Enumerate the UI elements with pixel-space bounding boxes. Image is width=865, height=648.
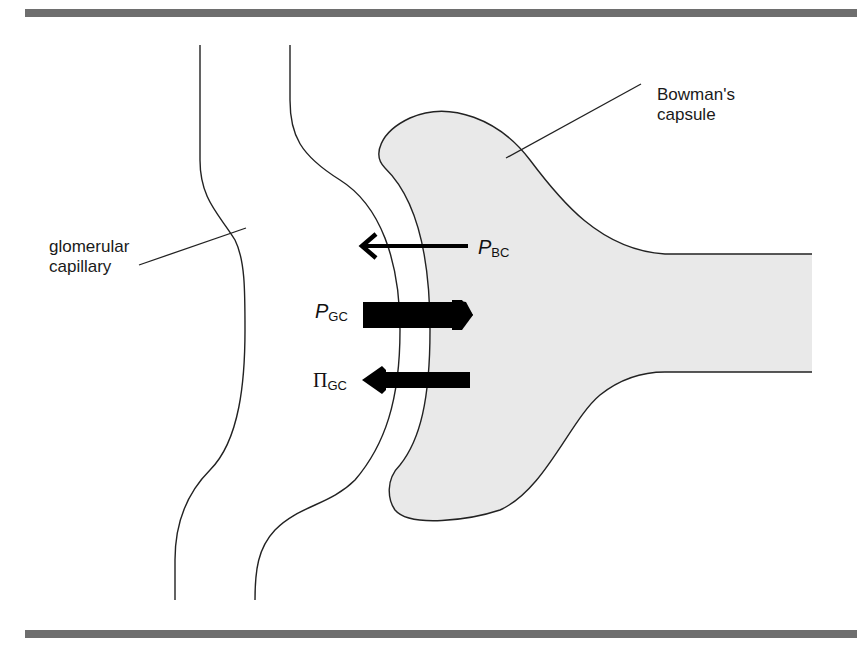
pigc-label: ΠGC [313, 369, 347, 397]
glomerular-capillary-label-line2: capillary [49, 257, 129, 277]
pbc-symbol: P [478, 236, 491, 258]
pgc-label: PGC [315, 300, 348, 328]
bowmans-capsule-leader [506, 84, 641, 158]
glomerular-capillary-and-bowmans-capsule [0, 0, 865, 648]
pgc-subscript: GC [328, 309, 348, 324]
glomerular-capillary-label-line1: glomerular [49, 237, 129, 257]
pigc-symbol: Π [313, 369, 327, 391]
pgc-symbol: P [315, 300, 328, 322]
pgc-arrow-right-icon [363, 300, 473, 330]
bowmans-capsule-label-line1: Bowman's [657, 85, 735, 105]
pigc-subscript: GC [327, 378, 347, 393]
glomerular-capillary-label: glomerular capillary [49, 237, 129, 277]
pbc-subscript: BC [491, 245, 509, 260]
pbc-label: PBC [478, 236, 509, 264]
glomerular-capillary-leader [139, 228, 246, 265]
bowmans-capsule-label: Bowman's capsule [657, 85, 735, 125]
bottom-rule [25, 630, 857, 638]
capillary-left-wall [175, 45, 245, 600]
bowmans-capsule-label-line2: capsule [657, 105, 735, 125]
top-rule [25, 9, 857, 17]
